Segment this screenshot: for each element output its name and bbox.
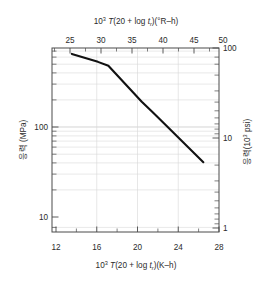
svg-text:103 T(20 + log tr)(°R–h): 103 T(20 + log tr)(°R–h) (94, 16, 179, 27)
top-tick-label: 40 (158, 36, 168, 45)
right-tick-label-10: 10 (223, 134, 233, 143)
svg-text:응력 (MPa): 응력 (MPa) (18, 119, 28, 160)
bottom-title-prefix: 10 (96, 261, 106, 270)
bottom-tick-label: 20 (133, 243, 143, 252)
bottom-axis-title: 103 T(20 + log tr)(K–h) (96, 260, 177, 271)
top-tick-label: 30 (96, 36, 106, 45)
bottom-tick-label: 28 (214, 243, 224, 252)
plot-frame (52, 48, 219, 232)
right-title-prefix: 응력(10 (242, 137, 252, 165)
top-tick-label: 35 (127, 36, 137, 45)
left-axis-title: 응력 (MPa) (18, 119, 28, 160)
left-tick-label-10: 10 (39, 213, 49, 222)
svg-text:응력(103 psi): 응력(103 psi) (242, 119, 252, 166)
right-axis-ticklabels: 100 10 1 (223, 44, 237, 233)
bottom-axis-ticklabels: 12 16 20 24 28 (51, 243, 224, 252)
top-axis-ticklabels: 25 30 35 40 45 50 (65, 36, 228, 45)
right-title-tail: psi) (243, 119, 252, 135)
bottom-tick-label: 24 (174, 243, 184, 252)
svg-text:103 T(20 + log tr)(K–h): 103 T(20 + log tr)(K–h) (96, 260, 177, 271)
bottom-tick-label: 16 (92, 243, 102, 252)
right-axis-ticks (213, 48, 220, 228)
vertical-gridlines (97, 48, 179, 232)
left-tick-label-100: 100 (34, 123, 48, 132)
top-axis-title: 103 T(20 + log tr)(°R–h) (94, 16, 179, 27)
bottom-title-body: (20 + log (115, 261, 149, 270)
bottom-tick-label: 12 (51, 243, 61, 252)
top-title-body: (20 + log (113, 17, 147, 26)
chart-svg: 103 T(20 + log tr)(°R–h) 25 30 35 40 45 … (0, 0, 273, 285)
right-tick-label-100: 100 (223, 44, 237, 53)
larson-miller-chart: 103 T(20 + log tr)(°R–h) 25 30 35 40 45 … (0, 0, 273, 285)
bottom-title-tail: )(K–h) (154, 261, 177, 270)
left-axis-ticklabels: 100 10 (34, 123, 48, 222)
right-axis-title: 응력(103 psi) (242, 119, 252, 166)
left-axis-ticks (52, 51, 59, 227)
right-tick-label-1: 1 (223, 224, 228, 233)
top-axis-ticks (55, 48, 210, 54)
top-tick-label: 45 (189, 36, 199, 45)
top-title-tail: )(°R–h) (152, 17, 179, 26)
horizontal-gridlines (52, 51, 219, 227)
top-tick-label: 25 (65, 36, 75, 45)
